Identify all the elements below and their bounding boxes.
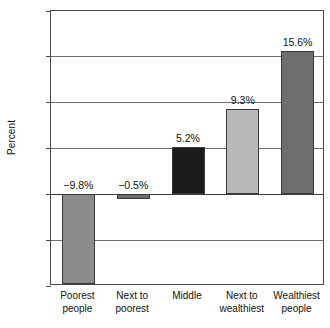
- y-tick-mark-15: [46, 56, 51, 57]
- y-axis-title: Percent: [6, 98, 17, 178]
- bar-value-label: 15.6%: [263, 37, 330, 48]
- x-axis-label-line: poorest: [100, 302, 165, 315]
- bar: [117, 194, 150, 199]
- bar: [281, 51, 314, 194]
- y-tick-mark-5: [46, 148, 51, 149]
- x-axis-labels: PoorestpeopleNext topoorestMiddleNext to…: [50, 289, 324, 327]
- plot-area: 20151050−5−10−9.8%−0.5%5.2%9.3%15.6%: [50, 10, 324, 285]
- bar: [172, 147, 205, 195]
- y-tick-mark--10: [46, 286, 51, 287]
- bar-value-label: −0.5%: [99, 180, 168, 191]
- bar: [226, 109, 259, 194]
- bar-value-label: 9.3%: [208, 95, 277, 106]
- x-axis-label-line: people: [264, 302, 329, 315]
- y-tick-mark-10: [46, 102, 51, 103]
- bar-value-label: 5.2%: [154, 133, 223, 144]
- y-tick-mark-0: [46, 194, 51, 195]
- x-axis-label: Wealthiestpeople: [264, 289, 329, 315]
- x-axis-label-line: Wealthiest: [264, 289, 329, 302]
- bar: [62, 194, 95, 284]
- bar-chart: Percent 20151050−5−10−9.8%−0.5%5.2%9.3%1…: [0, 0, 330, 328]
- y-tick-mark-20: [46, 11, 51, 12]
- y-tick-mark--5: [46, 240, 51, 241]
